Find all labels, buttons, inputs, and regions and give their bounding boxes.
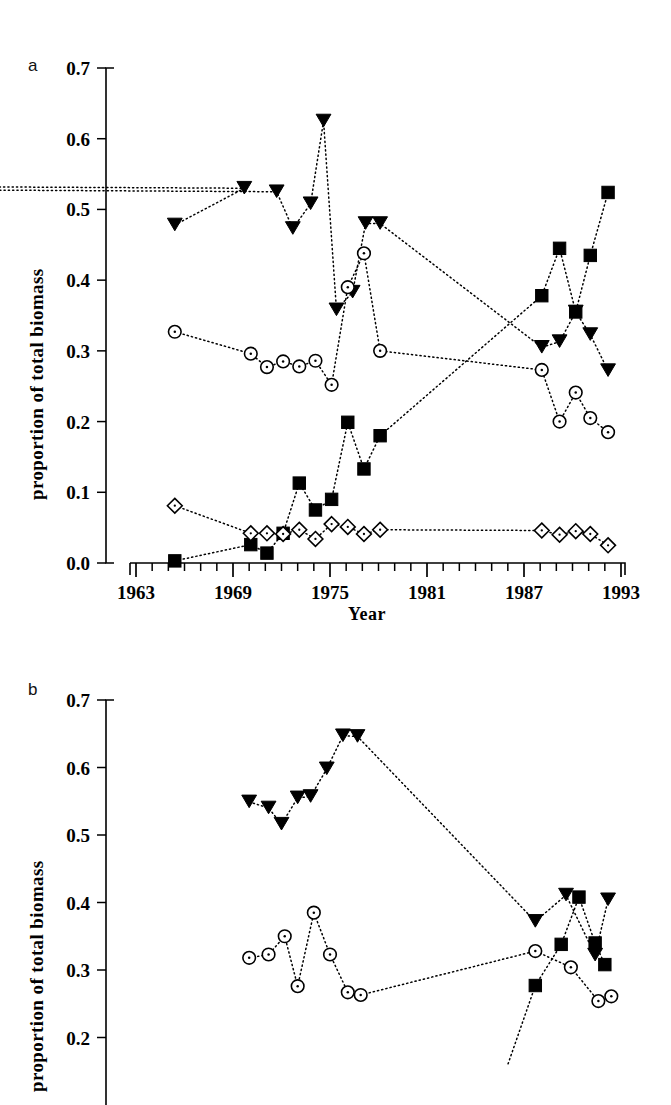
y-tick-label: 0.6: [66, 129, 90, 150]
y-tick-label: 0.3: [66, 341, 90, 362]
y-tick-label: 0.3: [66, 960, 90, 981]
data-point-square: [358, 463, 370, 475]
data-point-diamond-center: [558, 534, 560, 536]
x-tick-label: 1975: [311, 582, 349, 603]
panel-a-letter: a: [28, 56, 37, 76]
data-point-triangle: [601, 893, 616, 906]
data-point-circle-center: [174, 331, 177, 334]
data-point-circle-center: [607, 431, 610, 434]
y-tick-label: 0.6: [66, 758, 90, 779]
data-point-diamond-center: [330, 523, 332, 525]
data-point-square: [570, 306, 582, 318]
y-tick-label: 0.4: [66, 270, 90, 291]
data-point-square: [374, 430, 386, 442]
data-point-circle-center: [314, 360, 317, 363]
data-point-diamond-center: [282, 533, 284, 535]
panel-a: a proportion of total biomass Year 0.00.…: [0, 0, 671, 660]
panel-a-plot: 0.00.10.20.30.40.50.60.71963196919751981…: [0, 0, 671, 660]
data-point-triangle: [528, 915, 543, 928]
panel-a-y-axis: [106, 68, 114, 563]
data-point-triangle: [316, 114, 331, 127]
data-point-triangle: [303, 197, 318, 210]
data-point-circle-center: [266, 366, 269, 369]
panel-b-plot: 0.20.30.40.50.60.7: [0, 660, 671, 1105]
data-point-circle-center: [347, 286, 350, 289]
data-point-circle-center: [250, 352, 253, 355]
panel-b-letter: b: [28, 680, 37, 700]
data-point-circle-center: [541, 369, 544, 372]
series-filled-down-triangle: [242, 729, 616, 961]
data-point-circle-center: [267, 953, 270, 956]
y-tick-label: 0.0: [66, 553, 90, 574]
data-point-circle-center: [296, 985, 299, 988]
data-point-diamond-center: [314, 538, 316, 540]
data-point-square: [599, 958, 611, 970]
data-point-square: [293, 477, 305, 489]
data-point-diamond-center: [266, 532, 268, 534]
data-point-diamond-center: [250, 532, 252, 534]
data-point-triangle: [319, 762, 334, 775]
data-point-square: [169, 555, 181, 567]
series-tail: [508, 986, 535, 1065]
panel-a-x-axis: [130, 563, 625, 575]
data-point-square: [553, 242, 565, 254]
panel-b-y-axis: [106, 700, 114, 1105]
data-point-circle-center: [589, 417, 592, 420]
data-point-triangle: [559, 888, 574, 901]
x-tick-label: 1981: [408, 582, 446, 603]
data-point-triangle: [274, 817, 289, 830]
y-tick-label: 0.5: [66, 199, 90, 220]
data-point-triangle: [583, 328, 598, 341]
data-point-diamond-center: [541, 529, 543, 531]
data-point-square: [602, 186, 614, 198]
data-point-diamond-center: [298, 529, 300, 531]
x-tick-label: 1993: [602, 582, 640, 603]
y-tick-label: 0.2: [66, 412, 90, 433]
data-point-square: [325, 493, 337, 505]
data-point-circle-center: [329, 953, 332, 956]
series-filled-down-triangle: [0, 114, 615, 376]
series-filled-square: [529, 891, 611, 992]
data-point-circle-center: [248, 957, 251, 960]
data-point-triangle: [601, 364, 616, 377]
series-open-circle: [243, 906, 618, 1007]
y-tick-label: 0.5: [66, 825, 90, 846]
data-point-diamond-center: [379, 529, 381, 531]
data-point-square: [536, 290, 548, 302]
data-point-circle-center: [298, 365, 301, 368]
data-point-square: [261, 547, 273, 559]
y-tick-label: 0.2: [66, 1028, 90, 1049]
data-point-triangle: [303, 790, 318, 803]
data-point-diamond-center: [589, 533, 591, 535]
x-tick-label: 1969: [214, 582, 252, 603]
data-point-circle-center: [597, 1000, 600, 1003]
data-point-triangle: [285, 222, 300, 235]
data-point-square: [309, 504, 321, 516]
panel-a-x-axis-title: Year: [348, 604, 386, 625]
data-point-triangle: [261, 801, 276, 814]
data-point-circle-center: [313, 911, 316, 914]
panel-b: b proportion of total biomass 0.20.30.40…: [0, 660, 671, 1105]
data-point-triangle: [329, 303, 344, 316]
data-point-diamond-center: [347, 526, 349, 528]
x-tick-label: 1987: [505, 582, 544, 603]
y-tick-label: 0.7: [66, 58, 90, 79]
data-point-square: [589, 937, 601, 949]
series-line: [0, 121, 608, 371]
data-point-diamond-center: [363, 533, 365, 535]
data-point-circle-center: [610, 995, 613, 998]
panel-b-y-axis-title: proportion of total biomass: [26, 860, 48, 1092]
y-tick-label: 0.7: [66, 690, 90, 711]
data-point-square: [555, 938, 567, 950]
y-tick-label: 0.4: [66, 893, 90, 914]
data-point-square: [584, 249, 596, 261]
data-point-circle-center: [574, 391, 577, 394]
series-line: [249, 736, 608, 955]
data-point-circle-center: [379, 350, 382, 353]
data-point-square: [573, 891, 585, 903]
series-filled-square: [169, 186, 615, 567]
data-point-circle-center: [570, 966, 573, 969]
panel-a-y-axis-title: proportion of total biomass: [26, 268, 48, 500]
data-point-triangle: [242, 795, 257, 808]
data-point-triangle: [167, 218, 182, 231]
